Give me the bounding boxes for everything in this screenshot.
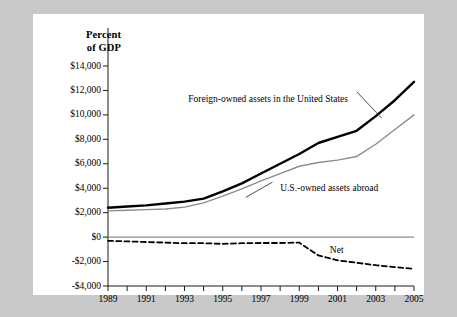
- series-annotation-2: Net: [330, 245, 344, 255]
- y-tick-label: $2,000: [39, 207, 101, 217]
- y-tick-label: -$2,000: [39, 256, 101, 266]
- y-tick-label: $4,000: [39, 183, 101, 193]
- x-tick-label: 1991: [126, 294, 166, 304]
- chart-plot: [33, 14, 424, 295]
- y-tick-label: $10,000: [39, 109, 101, 119]
- series-annotation-0: Foreign-owned assets in the United State…: [188, 94, 348, 104]
- series-line-2: [108, 241, 414, 269]
- y-tick-label: $14,000: [39, 61, 101, 71]
- x-tick-label: 1989: [88, 294, 128, 304]
- chart-container: Percent of GDP $14,000$12,000$10,000$8,0…: [33, 14, 424, 295]
- x-tick-label: 1993: [165, 294, 205, 304]
- x-tick-label: 2001: [318, 294, 358, 304]
- series-line-1: [108, 115, 414, 211]
- figure-card: Percent of GDP $14,000$12,000$10,000$8,0…: [33, 14, 424, 295]
- x-tick-label: 1999: [279, 294, 319, 304]
- y-tick-label: $0: [39, 232, 101, 242]
- axes-group: [103, 28, 414, 291]
- y-tick-label: $8,000: [39, 134, 101, 144]
- y-tick-label: $12,000: [39, 85, 101, 95]
- foreign-assets-leader-line: [357, 92, 382, 118]
- us-assets-leader-line: [246, 182, 273, 197]
- y-tick-label: $6,000: [39, 158, 101, 168]
- series-annotation-1: U.S.-owned assets abroad: [280, 183, 378, 193]
- x-tick-label: 2003: [356, 294, 396, 304]
- x-tick-label: 1997: [241, 294, 281, 304]
- x-tick-label: 1995: [203, 294, 243, 304]
- y-tick-label: -$4,000: [39, 281, 101, 291]
- x-tick-label: 2005: [394, 294, 434, 304]
- series-group: [108, 82, 414, 269]
